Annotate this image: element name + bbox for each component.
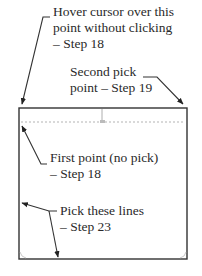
callout-line: – Step 18 [50, 166, 158, 182]
callout-line: point – Step 19 [70, 80, 152, 96]
callout-first-point: First point (no pick) – Step 18 [50, 150, 158, 182]
midpoint-marker [100, 120, 105, 123]
sketch-rectangle [19, 108, 187, 259]
fillet-bottom-left [20, 252, 26, 258]
fillet-bottom-right [180, 252, 186, 258]
callout-line: First point (no pick) [50, 150, 158, 166]
callout-second-pick: Second pick point – Step 19 [70, 64, 152, 96]
callout-line: Hover cursor over this [53, 4, 174, 20]
leader-pick-lines-bottom [49, 211, 58, 257]
callout-hover-point: Hover cursor over this point without cli… [53, 4, 174, 52]
leader-first-point [22, 126, 47, 164]
callout-line: Pick these lines [60, 203, 144, 219]
leader-pick-lines-left [22, 203, 57, 211]
diagram-canvas: Hover cursor over this point without cli… [0, 0, 202, 276]
callout-pick-lines: Pick these lines – Step 23 [60, 203, 144, 235]
callout-line: – Step 18 [53, 36, 174, 52]
callout-line: point without clicking [53, 20, 174, 36]
leader-hover-point [22, 17, 50, 104]
callout-line: Second pick [70, 64, 152, 80]
callout-line: – Step 23 [60, 219, 144, 235]
